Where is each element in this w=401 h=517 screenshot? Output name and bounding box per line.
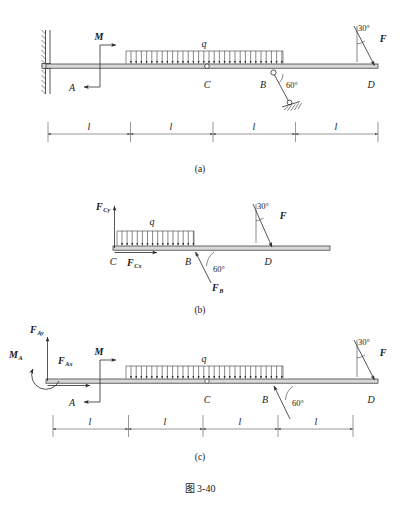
label-load-q-b: q [150,216,155,227]
label-moment-m-c: M [94,346,105,357]
hinge-c [205,64,210,69]
label-force-f-b: F [279,210,287,221]
panel-caption-c: (c) [195,452,206,463]
panel-caption-a: (a) [195,164,206,175]
hinge-c-marker-c [205,379,209,383]
label-point-b-b: B [185,256,191,267]
label-angle-30-c: 30° [358,337,370,347]
dim-label-a-4: l [335,121,338,132]
label-hinge-c-a: C [204,79,211,90]
label-support-a-c: A [68,397,76,408]
figure-3-40: M A [0,0,401,517]
beam-c [46,379,378,383]
label-force-f-a: F [379,33,387,44]
dim-label-c-3: l [239,416,242,427]
label-load-q-a: q [202,38,207,49]
label-force-f-c: F [379,347,387,358]
label-point-c-b: C [110,256,117,267]
label-angle-60-a: 60° [286,80,298,90]
dim-label-a-1: l [88,121,91,132]
beam-a [46,64,378,68]
label-angle-30-b: 30° [257,201,269,211]
label-point-d-b: D [263,256,272,267]
label-end-d-a: D [366,79,375,90]
dim-label-a-2: l [170,121,173,132]
pin-joint-b-a [271,70,276,75]
dim-label-c-1: l [89,416,92,427]
label-angle-30-a: 30° [358,23,370,33]
label-support-a: A [68,82,76,93]
label-moment-m-a: M [94,31,105,42]
panel-caption-b: (b) [194,305,205,316]
dim-label-a-3: l [253,121,256,132]
label-hinge-c-c: C [204,394,211,405]
label-end-d-c: D [366,394,375,405]
label-angle-60-b: 60° [213,264,225,274]
figure-caption: 图 3-40 [185,483,216,494]
label-joint-b-c: B [262,394,268,405]
dim-label-c-2: l [164,416,167,427]
dim-label-c-4: l [315,416,318,427]
label-joint-b-a: B [260,79,266,90]
label-angle-60-c: 60° [292,398,304,408]
beam-b [113,246,330,250]
label-load-q-c: q [202,353,207,364]
